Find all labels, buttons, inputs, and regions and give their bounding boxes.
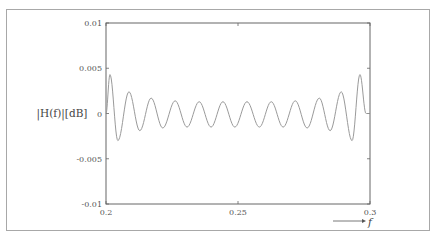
y-axis: 0.010.0050-0.005-0.01 (76, 19, 370, 209)
chart: 0.010.0050-0.005-0.01 0.20.250.3 |H(f)|[… (0, 0, 436, 239)
x-tick-label: 0.25 (229, 208, 247, 217)
y-tick-label: 0.005 (79, 64, 102, 73)
y-tick-label: 0.01 (84, 19, 102, 28)
y-axis-label: |H(f)|[dB] (37, 107, 88, 121)
y-tick-label: -0.005 (76, 155, 102, 164)
x-axis-arrow (333, 219, 366, 223)
x-axis-label: f (367, 216, 374, 228)
series-line (106, 75, 370, 141)
y-tick-label: 0 (97, 110, 102, 119)
x-axis: 0.20.250.3 (100, 23, 377, 217)
x-tick-label: 0.2 (100, 208, 113, 217)
